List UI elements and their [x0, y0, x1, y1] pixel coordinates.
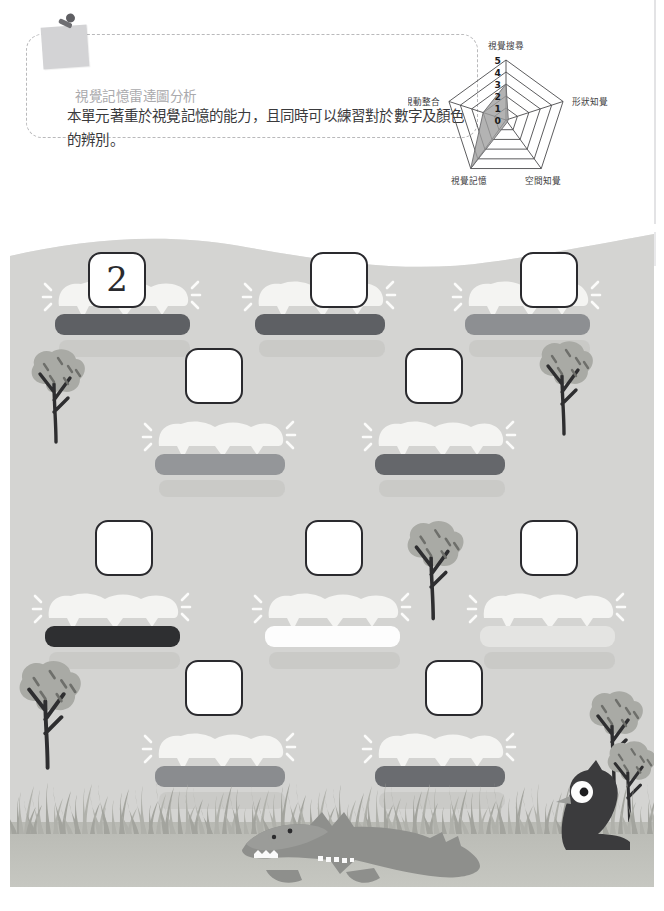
- white-log: [265, 626, 400, 647]
- answer-box[interactable]: [185, 348, 243, 404]
- snow-log: [253, 593, 410, 669]
- note-body: 本單元著重於視覺記憶的能力，且同時可以練習對於數字及顏色的辨別。: [67, 105, 467, 153]
- medium-gray-log: [465, 314, 590, 335]
- answer-box[interactable]: [305, 520, 363, 576]
- dark-gray-log: [55, 314, 190, 335]
- dark-gray-log: [375, 454, 505, 475]
- snow-log: [143, 733, 295, 809]
- answer-box[interactable]: [185, 660, 243, 716]
- medium-gray-log: [155, 454, 285, 475]
- pushpin-icon: [41, 24, 90, 69]
- radar-axis-label-0: 視覺搜尋: [488, 40, 524, 51]
- answer-box[interactable]: [520, 520, 578, 576]
- panel-edge-line-2: [654, 232, 656, 266]
- black-log: [45, 626, 180, 647]
- radar-tick-4: 4: [495, 67, 501, 78]
- worksheet-page: 視覺記憶雷達圖分析 本單元著重於視覺記憶的能力，且同時可以練習對於數字及顏色的辨…: [0, 0, 664, 911]
- answer-box[interactable]: 2: [88, 252, 146, 308]
- radar-tick-1: 1: [495, 103, 501, 114]
- note-title: 視覺記憶雷達圖分析: [75, 85, 375, 105]
- radar-axis-label-3: 視覺記憶: [451, 175, 487, 186]
- radar-axis-label-1: 形狀知覺: [572, 96, 608, 107]
- radar-tick-5: 5: [495, 55, 501, 66]
- snow-log: [363, 421, 515, 497]
- panel-edge-line: [654, 0, 656, 224]
- medium-gray-log: [155, 766, 285, 787]
- radar-axis-label-4: 視動整合: [408, 96, 440, 107]
- radar-tick-3: 3: [495, 79, 501, 90]
- visual-memory-radar-chart: 視覺搜尋 形狀知覺 空間知覺 視覺記憶 視動整合 543210: [408, 32, 608, 208]
- snow-log: [468, 593, 625, 669]
- answer-box[interactable]: [520, 252, 578, 308]
- snow-log: [143, 421, 295, 497]
- snow-log: [33, 593, 190, 669]
- dark-gray-log: [375, 766, 505, 787]
- answer-box[interactable]: [310, 252, 368, 308]
- answer-box[interactable]: [95, 520, 153, 576]
- answer-box[interactable]: [405, 348, 463, 404]
- dark-gray-log: [255, 314, 385, 335]
- radar-axis-label-2: 空間知覺: [525, 175, 561, 186]
- answer-box[interactable]: [425, 660, 483, 716]
- radar-tick-2: 2: [495, 91, 501, 102]
- radar-tick-0: 0: [495, 115, 501, 126]
- snow-log: [363, 733, 515, 809]
- light-gray-log: [480, 626, 615, 647]
